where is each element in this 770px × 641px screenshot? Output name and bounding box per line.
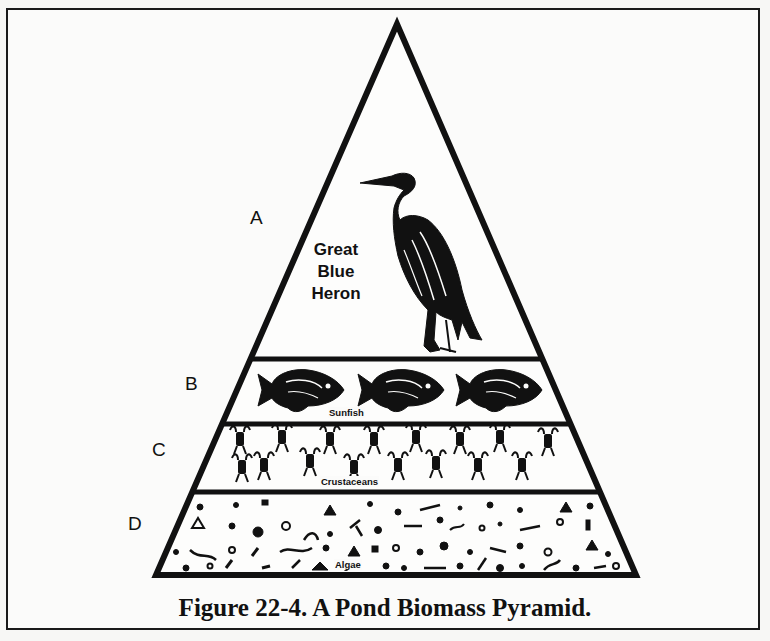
algae-label: Algae [334,559,362,570]
heron-label: Great Blue Heron [296,239,376,305]
level-label-d: D [128,513,142,535]
biomass-pyramid [0,0,770,641]
crustaceans-label: Crustaceans [320,476,379,487]
heron-label-line-2: Blue [296,261,376,283]
sunfish-label: Sunfish [328,407,365,418]
level-label-c: C [152,439,166,461]
heron-label-line-3: Heron [296,283,376,305]
level-label-a: A [250,207,263,229]
sunfish-icons [258,370,542,412]
level-label-b: B [185,373,198,395]
heron-label-line-1: Great [296,239,376,261]
figure-caption: Figure 22-4. A Pond Biomass Pyramid. [0,594,770,622]
